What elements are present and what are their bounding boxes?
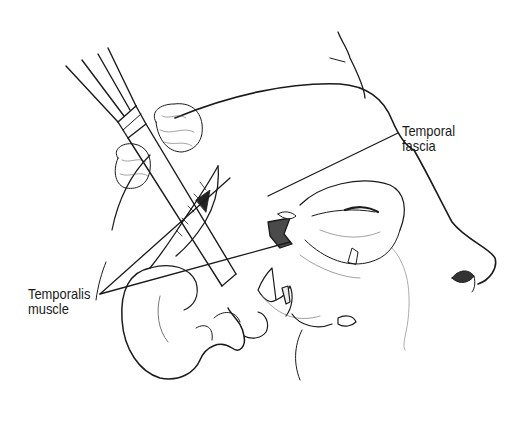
- label-temporalis-muscle: Temporalis muscle: [28, 286, 90, 316]
- temporal-fascia-flap: [268, 212, 296, 248]
- medical-illustration: [0, 0, 527, 421]
- label-temporal-fascia-line1: Temporal: [402, 123, 455, 138]
- eye-region: [300, 181, 404, 278]
- label-temporal-fascia: Temporal fascia: [402, 123, 455, 153]
- scalp-incision: [150, 166, 218, 268]
- lower-face: [292, 314, 356, 380]
- temporalis-muscle-stump: [258, 268, 320, 319]
- head-outline: [96, 32, 496, 350]
- label-temporalis-muscle-line1: Temporalis: [28, 286, 90, 301]
- label-temporalis-muscle-line2: muscle: [28, 301, 90, 316]
- surgical-retractor: [66, 48, 236, 286]
- label-temporal-fascia-line2: fascia: [402, 138, 455, 153]
